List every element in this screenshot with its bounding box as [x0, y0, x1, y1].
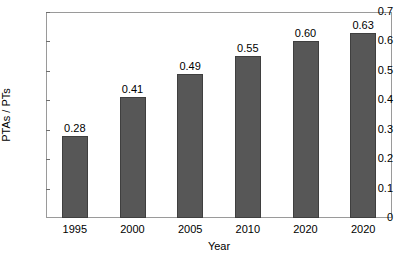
- x-axis-title: Year: [46, 240, 392, 252]
- bar-item: 0.41: [120, 12, 146, 218]
- bar-item: 0.55: [235, 12, 261, 218]
- bar-rect: [293, 41, 319, 218]
- bar-rect: [62, 136, 88, 218]
- x-tick-label: 2005: [160, 223, 220, 235]
- bar-rect: [350, 33, 376, 218]
- bar-value-label: 0.63: [340, 19, 386, 31]
- y-axis-title: PTAs / PTs: [0, 5, 14, 225]
- bar-item: 0.63: [350, 12, 376, 218]
- bar-value-label: 0.28: [52, 122, 98, 134]
- bar-chart: PTAs / PTs 0.70.60.50.40.30.20.10 0.280.…: [0, 0, 401, 257]
- bar-item: 0.60: [293, 12, 319, 218]
- bar-item: 0.49: [177, 12, 203, 218]
- x-tick-label: 2020: [333, 223, 393, 235]
- x-tick-label: 2010: [218, 223, 278, 235]
- bar-value-label: 0.55: [225, 42, 271, 54]
- bar-rect: [235, 56, 261, 218]
- bar-value-label: 0.41: [110, 83, 156, 95]
- bar-value-label: 0.49: [167, 60, 213, 72]
- bar-series: 0.280.410.490.550.600.63: [46, 12, 392, 218]
- bar-item: 0.28: [62, 12, 88, 218]
- bar-rect: [177, 74, 203, 218]
- bar-value-label: 0.60: [283, 27, 329, 39]
- x-tick-label: 2000: [103, 223, 163, 235]
- x-tick-label: 2020: [276, 223, 336, 235]
- bar-rect: [120, 97, 146, 218]
- x-tick-label: 1995: [45, 223, 105, 235]
